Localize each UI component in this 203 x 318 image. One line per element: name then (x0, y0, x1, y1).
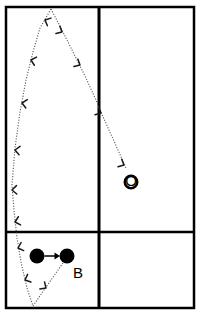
player-ball-target (60, 249, 75, 264)
court-diagram-svg: O B (0, 0, 203, 318)
player-ball-source (30, 249, 45, 264)
label-o: O (125, 172, 137, 189)
play-diagram-root: O B (0, 0, 203, 318)
label-b: B (73, 264, 83, 281)
